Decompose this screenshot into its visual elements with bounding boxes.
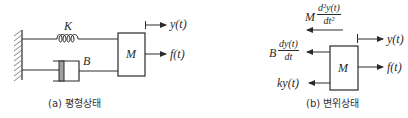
damper-label: B	[83, 55, 90, 67]
damping-denominator: dt	[285, 51, 293, 62]
inertia-numerator: d²y(t)	[317, 3, 341, 15]
damping-numerator: dy(t)	[278, 39, 299, 51]
mass-label-b: M	[338, 62, 348, 74]
inertia-coef-label: M	[305, 11, 315, 23]
displacement-arrow-b	[358, 34, 384, 43]
caption-b: (b) 변위상태	[306, 99, 359, 109]
damping-coef-label: B	[269, 47, 276, 59]
displacement-label-a: y(t)	[170, 18, 187, 30]
caption-a: (a) 평형상태	[48, 99, 101, 109]
spring-force-label: ky(t)	[277, 77, 299, 89]
inertia-denominator: dt²	[324, 15, 335, 26]
inertia-derivative: d²y(t) dt²	[317, 3, 341, 26]
spring-label: K	[64, 20, 72, 32]
force-label-a: f(t)	[170, 48, 185, 60]
displacement-arrow-a	[146, 21, 167, 29]
fixed-wall	[14, 30, 22, 81]
mass-label-a: M	[126, 48, 136, 60]
force-label-b: f(t)	[387, 61, 402, 73]
displacement-label-b: y(t)	[387, 33, 404, 45]
damping-derivative: dy(t) dt	[278, 39, 299, 62]
damper	[22, 61, 118, 81]
spring	[22, 35, 118, 43]
